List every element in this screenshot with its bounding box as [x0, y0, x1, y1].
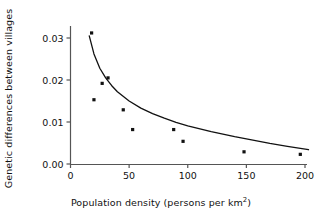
- chart-figure: Genetic differences between villages Pop…: [0, 0, 322, 211]
- fitted-curve: [89, 36, 308, 150]
- x-axis-title-prefix: Population density (persons per km: [71, 197, 243, 208]
- y-tick-label-2: 0.02: [24, 75, 64, 86]
- y-axis-title: Genetic differences between villages: [4, 8, 15, 187]
- data-point: [181, 140, 184, 143]
- x-axis-title: Population density (persons per km2): [0, 197, 322, 208]
- x-tick-label-1: 50: [123, 170, 135, 181]
- data-point: [122, 108, 125, 111]
- x-tick-label-3: 150: [237, 170, 255, 181]
- data-point: [131, 128, 134, 131]
- y-tick-label-0: 0.00: [24, 159, 64, 170]
- x-tick-label-2: 100: [179, 170, 197, 181]
- x-tick-label-0: 0: [67, 170, 73, 181]
- x-tick-label-4: 200: [296, 170, 314, 181]
- data-point: [299, 153, 302, 156]
- y-tick-label-1: 0.01: [24, 117, 64, 128]
- data-point: [90, 31, 93, 34]
- data-point: [101, 82, 104, 85]
- data-point: [92, 98, 95, 101]
- data-point: [106, 76, 109, 79]
- x-axis-title-suffix: ): [247, 197, 251, 208]
- y-axis-title-container: Genetic differences between villages: [0, 0, 18, 196]
- data-point: [172, 128, 175, 131]
- data-points: [90, 31, 302, 156]
- y-tick-label-3: 0.03: [24, 33, 64, 44]
- data-point: [242, 150, 245, 153]
